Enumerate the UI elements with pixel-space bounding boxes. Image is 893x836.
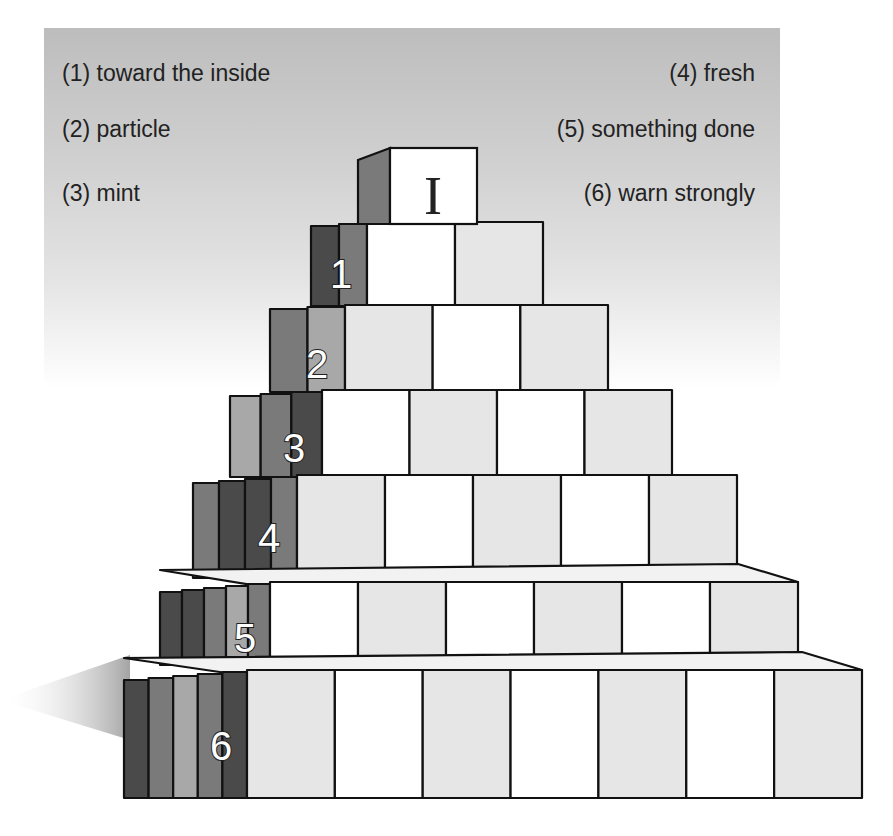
row-side-strip	[160, 592, 182, 665]
answer-box[interactable]	[345, 305, 433, 392]
row-side-strip	[193, 483, 219, 578]
top-block-letter: I	[424, 166, 442, 226]
row-side-strip	[230, 396, 261, 477]
answer-box[interactable]	[433, 305, 521, 392]
answer-box[interactable]	[247, 670, 335, 798]
row-side-strip	[149, 678, 174, 798]
answer-box[interactable]	[297, 475, 385, 578]
answer-box[interactable]	[497, 390, 585, 477]
row-side-strip	[219, 481, 245, 578]
answer-box[interactable]	[270, 582, 358, 665]
answer-box[interactable]	[322, 390, 410, 477]
answer-box[interactable]	[686, 670, 774, 798]
answer-box[interactable]	[598, 670, 686, 798]
pyramid-illustration: 1 2 3 4 5 6 I	[0, 0, 893, 836]
row-side-strip	[204, 588, 226, 665]
row-side-strip	[270, 309, 308, 392]
row-side-strip	[124, 680, 149, 798]
answer-box[interactable]	[385, 475, 473, 578]
row-label-3: 3	[283, 426, 305, 470]
answer-box[interactable]	[367, 222, 455, 306]
pyramid-shadow	[0, 655, 130, 740]
answer-box[interactable]	[534, 582, 622, 665]
row-label-2: 2	[306, 342, 328, 386]
answer-box[interactable]	[520, 305, 608, 392]
answer-box[interactable]	[561, 475, 649, 578]
row-label-5: 5	[234, 616, 256, 660]
row-side-strip	[173, 676, 198, 798]
row-label-6: 6	[210, 724, 232, 768]
row-label-4: 4	[258, 516, 280, 560]
answer-box[interactable]	[410, 390, 498, 477]
row-side-strip	[182, 590, 204, 665]
answer-box[interactable]	[335, 670, 423, 798]
pyramid-row-6	[124, 652, 862, 798]
answer-box[interactable]	[585, 390, 673, 477]
answer-box[interactable]	[774, 670, 862, 798]
answer-box[interactable]	[455, 222, 543, 306]
answer-box[interactable]	[423, 670, 511, 798]
answer-box[interactable]	[358, 582, 446, 665]
top-block-side	[358, 148, 390, 224]
answer-box[interactable]	[473, 475, 561, 578]
answer-box[interactable]	[511, 670, 599, 798]
answer-box[interactable]	[649, 475, 737, 578]
row-label-1: 1	[330, 252, 352, 296]
answer-box[interactable]	[446, 582, 534, 665]
